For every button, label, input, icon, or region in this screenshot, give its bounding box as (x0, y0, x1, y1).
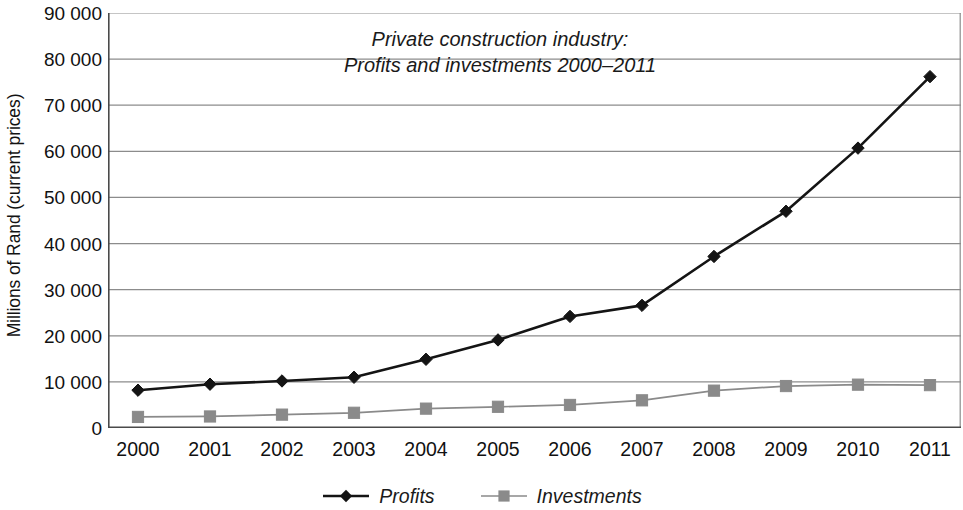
data-point (276, 375, 288, 387)
data-point (132, 411, 143, 422)
y-tick-label: 60 000 (26, 142, 102, 161)
chart-legend: ProfitsInvestments (0, 482, 963, 510)
data-point (204, 411, 215, 422)
x-tick-label: 2010 (818, 438, 898, 460)
x-tick-label: 2004 (386, 438, 466, 460)
x-tick-label: 2000 (98, 438, 178, 460)
legend-label: Profits (379, 485, 434, 508)
chart-figure: Millions of Rand (current prices) 010 00… (0, 0, 963, 510)
chart-title-line-2: Profits and investments 2000–2011 (240, 52, 760, 78)
data-point (564, 399, 575, 410)
series-investments (132, 379, 935, 422)
x-tick-label: 2005 (458, 438, 538, 460)
y-tick-label: 70 000 (26, 96, 102, 115)
data-point (492, 401, 503, 412)
series-line (138, 77, 930, 391)
x-tick-label: 2007 (602, 438, 682, 460)
data-point (708, 385, 719, 396)
series-profits (132, 70, 936, 396)
y-axis-title-text: Millions of Rand (current prices) (5, 93, 26, 337)
legend-label: Investments (537, 485, 642, 508)
legend-entry: Profits (321, 485, 434, 508)
y-tick-label: 90 000 (26, 4, 102, 23)
legend-diamond-marker-icon (321, 486, 371, 506)
legend-square-marker-icon (479, 486, 529, 506)
data-point (852, 379, 863, 390)
data-point (420, 403, 431, 414)
data-point (924, 380, 935, 391)
chart-title: Private construction industry: Profits a… (240, 26, 760, 78)
x-tick-label: 2011 (890, 438, 963, 460)
data-point (564, 310, 576, 322)
x-tick-label: 2002 (242, 438, 322, 460)
data-point (780, 380, 791, 391)
series-line (138, 385, 930, 417)
x-tick-label: 2003 (314, 438, 394, 460)
data-point (204, 378, 216, 390)
y-tick-label: 30 000 (26, 280, 102, 299)
data-point (348, 407, 359, 418)
y-tick-label: 0 (26, 419, 102, 438)
y-tick-label: 80 000 (26, 50, 102, 69)
data-point (276, 409, 287, 420)
data-point (636, 395, 647, 406)
legend-entry: Investments (479, 485, 642, 508)
x-tick-label: 2008 (674, 438, 754, 460)
x-tick-label: 2001 (170, 438, 250, 460)
data-point (132, 384, 144, 396)
x-tick-label: 2009 (746, 438, 826, 460)
x-tick-label: 2006 (530, 438, 610, 460)
y-tick-label: 50 000 (26, 188, 102, 207)
y-tick-label: 20 000 (26, 326, 102, 345)
data-point (420, 353, 432, 365)
y-tick-label: 40 000 (26, 234, 102, 253)
x-axis-tick-labels: 2000200120022003200420052006200720082009… (108, 438, 961, 466)
y-tick-label: 10 000 (26, 372, 102, 391)
chart-title-line-1: Private construction industry: (240, 26, 760, 52)
y-axis-tick-labels: 010 00020 00030 00040 00050 00060 00070 … (24, 0, 102, 430)
